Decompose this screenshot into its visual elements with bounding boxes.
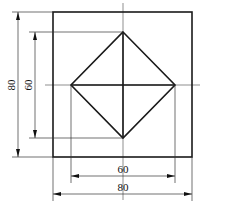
dimension-label-horizontal-outer: 80 — [118, 181, 130, 193]
dimension-vertical-outer: 80 — [5, 12, 20, 157]
dimension-horizontal-outer: 80 — [53, 181, 192, 196]
arrow-icon — [53, 192, 61, 196]
arrow-icon — [71, 174, 79, 178]
dimension-label-horizontal-inner: 60 — [118, 163, 130, 175]
technical-drawing: 80 60 60 80 — [0, 0, 233, 211]
arrow-icon — [16, 12, 20, 20]
dimension-label-vertical-inner: 60 — [22, 79, 34, 91]
dimension-vertical-inner: 60 — [22, 32, 37, 138]
arrow-icon — [33, 130, 37, 138]
arrow-icon — [184, 192, 192, 196]
arrow-icon — [167, 174, 175, 178]
arrow-icon — [33, 32, 37, 40]
dimension-label-vertical-outer: 80 — [5, 79, 17, 91]
arrow-icon — [16, 149, 20, 157]
dimension-horizontal-inner: 60 — [71, 163, 175, 178]
